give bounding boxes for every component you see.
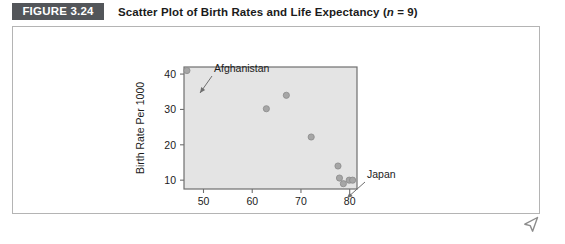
annotation-label-afghanistan: Afghanistan <box>214 62 270 74</box>
x-tick-label: 60 <box>246 195 258 207</box>
y-tick-label: 10 <box>164 174 176 186</box>
annotation-label-japan: Japan <box>367 168 396 180</box>
x-tick-label: 70 <box>295 195 307 207</box>
x-tick-label: 50 <box>198 195 210 207</box>
plot-area-background <box>184 67 357 189</box>
figure-header: FIGURE 3.24 Scatter Plot of Birth Rates … <box>0 0 565 26</box>
y-axis-title: Birth Rate Per 1000 <box>134 82 146 174</box>
data-point <box>335 163 341 169</box>
y-axis-ticks: 10203040 <box>164 68 184 186</box>
figure-caption-n-symbol: n <box>387 6 394 18</box>
data-point-afghanistan <box>184 67 190 73</box>
x-axis-ticks: 50607080 <box>198 189 356 207</box>
data-point-japan <box>350 177 356 183</box>
figure-number-badge: FIGURE 3.24 <box>12 3 104 20</box>
y-tick-label: 20 <box>164 139 176 151</box>
figure-caption: Scatter Plot of Birth Rates and Life Exp… <box>118 4 418 20</box>
mouse-pointer-icon <box>521 214 543 238</box>
data-point <box>283 92 289 98</box>
data-point <box>263 106 269 112</box>
data-point <box>336 175 342 181</box>
data-point <box>308 134 314 140</box>
y-tick-label: 40 <box>164 68 176 80</box>
scatter-plot: 50607080 10203040 AfghanistanJapan Life … <box>12 26 540 214</box>
figure-caption-main: Scatter Plot of Birth Rates and Life Exp… <box>118 6 387 18</box>
figure-caption-tail: = 9) <box>394 6 418 18</box>
data-point <box>340 181 346 187</box>
x-axis-title: Life Expectancy (years) <box>216 212 326 214</box>
y-tick-label: 30 <box>164 103 176 115</box>
